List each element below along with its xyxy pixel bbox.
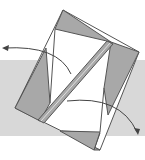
left-arrowhead-icon xyxy=(2,45,9,51)
origami-diagram xyxy=(0,0,145,160)
bottom-flap-fill xyxy=(60,131,100,150)
